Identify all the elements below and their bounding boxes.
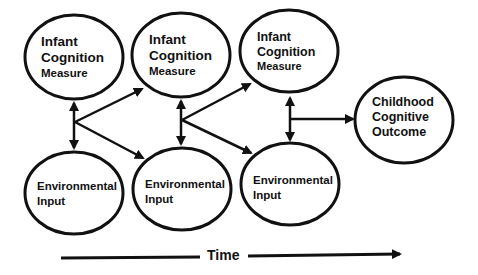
environment-node-3: Environmental Input bbox=[253, 174, 333, 201]
outcome-node: Childhood Cognitive Outcome bbox=[372, 96, 434, 139]
infant-node-1-line2: Cognition bbox=[41, 51, 104, 65]
environment-node-1-line2: Input bbox=[37, 195, 117, 207]
time-axis-line-left bbox=[61, 257, 200, 258]
time-axis-arrow bbox=[248, 254, 400, 256]
environment-node-1: Environmental Input bbox=[37, 180, 117, 207]
outcome-node-line2: Cognitive bbox=[372, 111, 434, 124]
environment-node-1-line1: Environmental bbox=[37, 180, 117, 192]
infant-node-2-line2: Cognition bbox=[149, 49, 212, 63]
environment-node-3-line2: Input bbox=[253, 189, 333, 201]
time-axis-label: Time bbox=[207, 248, 239, 263]
infant-node-2-line3: Measure bbox=[149, 65, 212, 77]
outcome-node-line1: Childhood bbox=[372, 96, 434, 109]
infant-node-1-line1: Infant bbox=[41, 35, 104, 49]
arrow-junction1-to-infant2 bbox=[75, 89, 142, 122]
arrow-junction2-to-infant3 bbox=[182, 84, 250, 120]
environment-node-2-line1: Environmental bbox=[145, 178, 225, 190]
outcome-node-line3: Outcome bbox=[372, 126, 434, 139]
infant-node-2: Infant Cognition Measure bbox=[149, 33, 212, 77]
environment-node-2-line2: Input bbox=[145, 193, 225, 205]
infant-node-1: Infant Cognition Measure bbox=[41, 35, 104, 79]
infant-node-3-line3: Measure bbox=[257, 61, 315, 73]
infant-node-2-line1: Infant bbox=[149, 33, 212, 47]
environment-node-2: Environmental Input bbox=[145, 178, 225, 205]
infant-node-3-line2: Cognition bbox=[257, 46, 315, 59]
infant-node-3-line1: Infant bbox=[257, 31, 315, 44]
infant-node-3: Infant Cognition Measure bbox=[257, 31, 315, 73]
infant-node-1-line3: Measure bbox=[41, 67, 104, 79]
environment-node-3-line1: Environmental bbox=[253, 174, 333, 186]
